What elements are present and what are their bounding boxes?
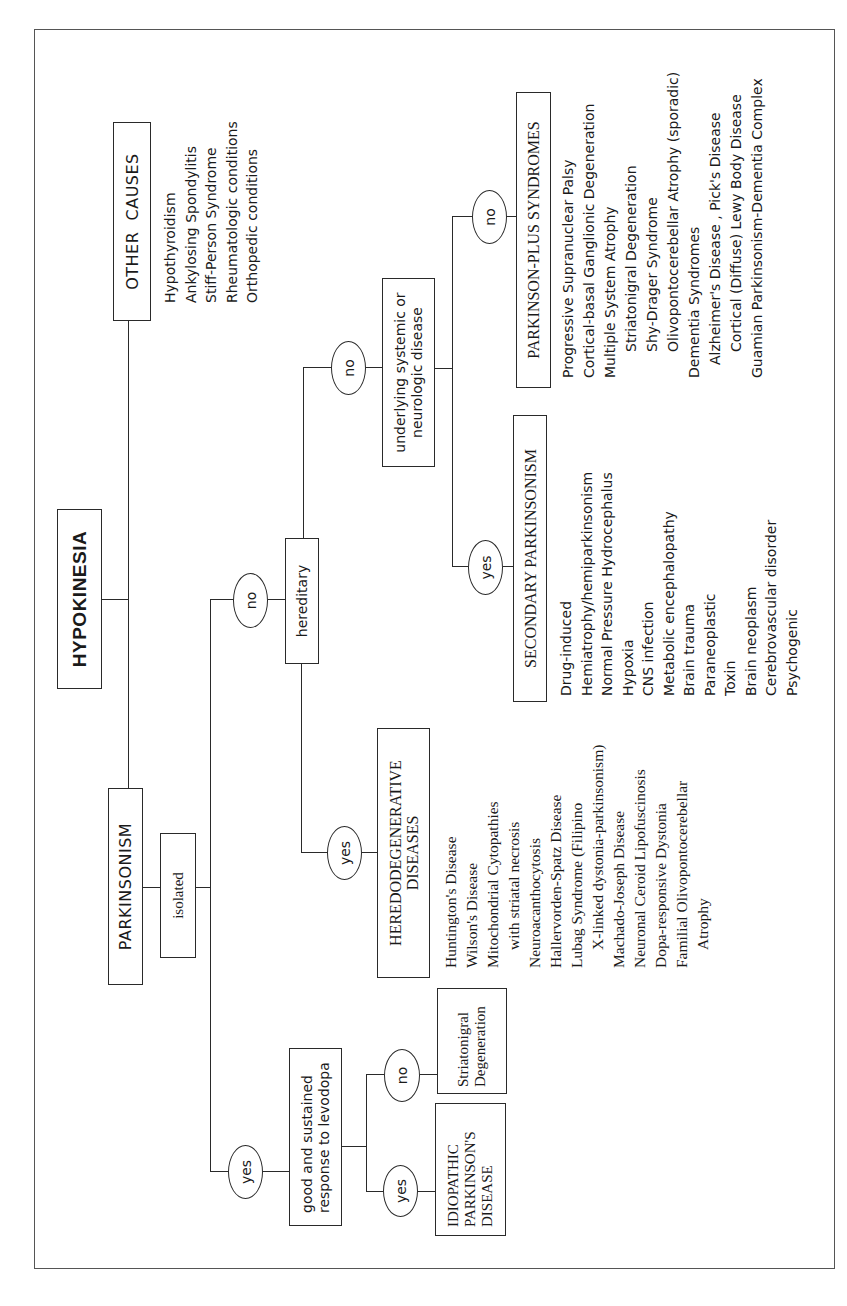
secondary-parkinsonism-label: SECONDARY PARKINSONISM (522, 449, 539, 668)
connector-no-hereditary (268, 599, 285, 600)
parkinson-plus-label: PARKINSON-PLUS SYNDROMES (525, 121, 542, 358)
striatonigral-label: Striatonigral Degeneration (455, 995, 489, 1087)
list-item: Atrophy (692, 745, 713, 968)
underlying-yes-decision: yes (468, 540, 503, 595)
list-item: Dopa-responsive Dystonia (650, 745, 671, 968)
list-item: Ankylosing Spondylitis (181, 121, 202, 303)
decision-label: yes (478, 555, 494, 579)
list-item: Guamian Parkinsonism-Dementia Complex (747, 72, 768, 378)
secondary-parkinsonism-list: Drug-inducedHemiatrophy/hemiparkinsonism… (556, 472, 802, 696)
hereditary-node: hereditary (285, 538, 319, 664)
decision-label: yes (337, 841, 353, 865)
list-item: Hypoxia (618, 472, 639, 696)
list-item: Rheumatologic conditions (222, 121, 243, 303)
list-item: Olivopontocerebellar Atrophy (sporadic) (663, 72, 684, 378)
list-item: Lubag Syndrome (Filipino (566, 745, 587, 968)
parkinsonism-label: PARKINSONISM (116, 823, 135, 950)
connector-to-levodopa-no (366, 1074, 384, 1075)
list-item: Psychogenic (782, 472, 803, 696)
list-item: Alzheimer's Disease , Pick's Disease (705, 72, 726, 378)
hereditary-yes-decision: yes (327, 826, 362, 880)
hypokinesia-node: HYPOKINESIA (57, 509, 102, 689)
list-item: CNS infection (638, 472, 659, 696)
isolated-no-decision: no (233, 573, 268, 628)
parkinson-plus-node: PARKINSON-PLUS SYNDROMES (516, 92, 551, 388)
underlying-no-decision: no (472, 190, 507, 244)
connector-no-underlying (366, 367, 382, 368)
connector-no-parkinson-plus (507, 216, 516, 217)
list-item: Cerebrovascular disorder (761, 472, 782, 696)
connector-to-no (210, 599, 233, 600)
list-item: Progressive Supranuclear Palsy (558, 72, 579, 378)
underlying-disease-node: underlying systemic or neurologic diseas… (382, 278, 435, 467)
list-item: X-linked dystonia-parkinsonism) (587, 745, 608, 968)
list-item: Mitochondrial Cytopathies (482, 745, 503, 968)
list-item: Drug-induced (556, 472, 577, 696)
underlying-disease-label: underlying systemic or neurologic diseas… (392, 291, 426, 454)
list-item: Cortical (Diffuse) Lewy Body Disease (726, 72, 747, 378)
connector-underlying-branch (435, 368, 452, 369)
list-item: Huntington's Disease (440, 745, 461, 968)
heredodegenerative-label: HEREDODEGENERATIVE DISEASES (387, 749, 421, 957)
decision-label: no (394, 1067, 410, 1084)
list-item: Wilson's Disease (461, 745, 482, 968)
connector-levodopa-spine (366, 1075, 367, 1192)
connector-yes-heredodegenerative (362, 852, 377, 853)
connector-isolated-spine (210, 600, 211, 1172)
idiopathic-pd-label: IDIOPATHIC PARKINSON'S DISEASE (445, 1112, 496, 1227)
decision-label: yes (393, 1179, 409, 1203)
connector-levodopa-branch (342, 1146, 366, 1147)
levodopa-response-label: good and sustained response to levodopa (299, 1061, 333, 1213)
connector-to-isolated-yes (210, 1171, 228, 1172)
connector-parkinsonism-isolated (143, 887, 160, 888)
decision-label: no (482, 208, 498, 225)
list-item: Neuronal Ceroid Lipofuscinosis (629, 745, 650, 968)
connector-yes-levodopa (263, 1171, 289, 1172)
other-causes-label: OTHER CAUSES (123, 153, 142, 290)
list-item: Normal Pressure Hydrocephalus (597, 472, 618, 696)
striatonigral-node: Striatonigral Degeneration (437, 988, 507, 1094)
list-item: Paraneoplastic (700, 472, 721, 696)
secondary-parkinsonism-node: SECONDARY PARKINSONISM (513, 415, 547, 702)
list-item: with striatal necrosis (503, 745, 524, 968)
hereditary-label: hereditary (294, 565, 311, 637)
list-item: Metabolic encephalopathy (659, 472, 680, 696)
connector-to-underlying-yes (452, 566, 468, 567)
connector-yes-secondary (503, 566, 513, 567)
list-item: Neuroacanthocytosis (524, 745, 545, 968)
parkinson-plus-list: Progressive Supranuclear PalsyCortical-b… (558, 72, 768, 378)
list-item: Orthopedic conditions (242, 121, 263, 303)
connector-no-striatonigral (420, 1074, 437, 1075)
connector-underlying-spine (452, 217, 453, 567)
list-item: Toxin (720, 472, 741, 696)
connector-isolated-branch (196, 887, 210, 888)
list-item: Multiple System Atrophy (600, 72, 621, 378)
list-item: Striatonigral Degeneration (621, 72, 642, 378)
connector-to-levodopa-yes (366, 1191, 383, 1192)
decision-label: no (243, 592, 259, 609)
list-item: Shy-Drager Syndrome (642, 72, 663, 378)
list-item: Hallervorden-Spatz Disease (545, 745, 566, 968)
parkinsonism-node: PARKINSONISM (108, 788, 143, 985)
decision-label: yes (238, 1160, 254, 1184)
connector-to-hereditary-no (303, 367, 331, 368)
other-causes-list: HypothyroidismAnkylosing SpondylitisStif… (160, 121, 263, 303)
connector-root (102, 599, 128, 600)
list-item: Stiff-Person Syndrome (201, 121, 222, 303)
list-item: Cortical-basal Ganglionic Degeneration (579, 72, 600, 378)
connector-main-spine (128, 321, 129, 788)
levodopa-no-decision: no (384, 1049, 420, 1102)
idiopathic-pd-node: IDIOPATHIC PARKINSON'S DISEASE (435, 1103, 506, 1236)
list-item: Machado-Joseph Disease (608, 745, 629, 968)
list-item: Brain neoplasm (741, 472, 762, 696)
connector-hereditary-yes (301, 664, 302, 853)
levodopa-response-node: good and sustained response to levodopa (289, 1048, 342, 1226)
other-causes-node: OTHER CAUSES (113, 122, 151, 321)
connector-to-hereditary-yes (301, 852, 327, 853)
list-item: Brain trauma (679, 472, 700, 696)
list-item: Dementia Syndromes (684, 72, 705, 378)
isolated-yes-decision: yes (228, 1145, 263, 1199)
list-item: Hemiatrophy/hemiparkinsonism (577, 472, 598, 696)
decision-label: no (341, 359, 357, 376)
connector-hereditary-no (303, 368, 304, 538)
